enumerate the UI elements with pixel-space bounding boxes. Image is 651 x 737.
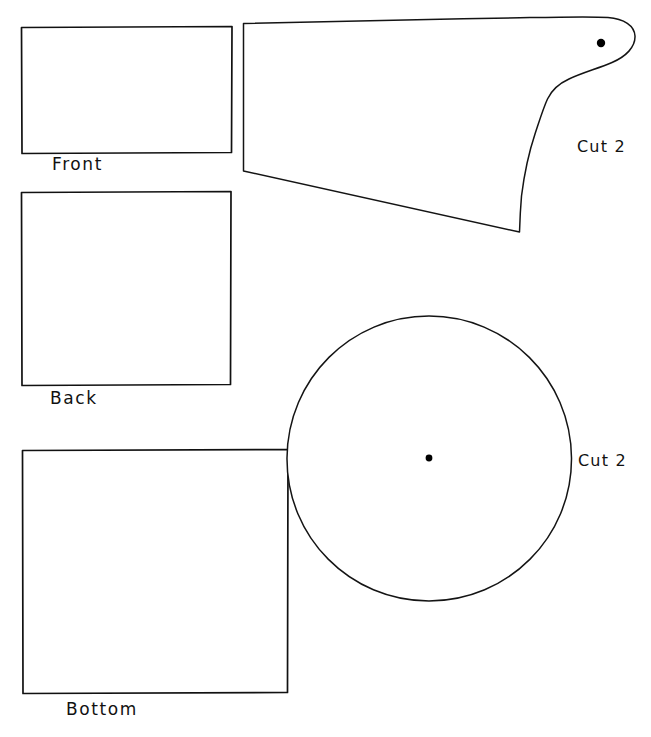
pattern-drawing-canvas bbox=[0, 0, 651, 737]
back-piece-label: Back bbox=[50, 390, 98, 407]
side-profile-cut-label: Cut 2 bbox=[577, 139, 626, 155]
circle-piece-cut-label: Cut 2 bbox=[578, 453, 627, 469]
front-piece-outline bbox=[22, 27, 233, 154]
bottom-piece-label: Bottom bbox=[66, 701, 138, 718]
pattern-sheet: Front Back Bottom Cut 2 Cut 2 bbox=[0, 0, 651, 737]
side-profile-mark-dot bbox=[597, 39, 605, 47]
side-profile-piece-outline bbox=[244, 17, 636, 232]
back-piece-outline bbox=[22, 192, 232, 386]
bottom-piece-outline bbox=[23, 450, 289, 694]
front-piece-label: Front bbox=[52, 156, 103, 173]
circle-piece-center-dot bbox=[426, 455, 433, 462]
